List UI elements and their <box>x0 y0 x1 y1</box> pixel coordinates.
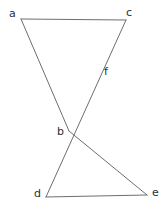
seg-a-c <box>21 19 126 20</box>
seg-d-e <box>46 195 147 197</box>
figure-canvas <box>0 0 168 207</box>
vertex-label-f: f <box>104 66 108 77</box>
geometry-figure: acfbde <box>0 0 168 207</box>
seg-a-b <box>21 19 69 131</box>
vertex-label-b: b <box>57 126 64 137</box>
seg-c-d <box>46 20 126 197</box>
vertex-label-c: c <box>126 7 132 18</box>
vertex-label-a: a <box>9 8 16 19</box>
vertex-label-e: e <box>152 187 159 198</box>
segment-group <box>21 19 147 197</box>
vertex-label-d: d <box>34 188 41 199</box>
seg-b-e <box>69 131 147 195</box>
